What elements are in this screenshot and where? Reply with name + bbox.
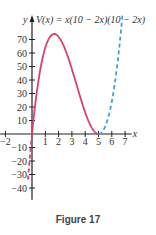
y-tick-label: −10 — [11, 142, 27, 153]
x-tick-label: 4 — [83, 136, 88, 147]
y-tick-label: 50 — [17, 61, 27, 72]
x-axis-label: x — [132, 128, 138, 139]
y-axis-arrow-icon — [30, 15, 35, 22]
x-tick-label: −2 — [0, 136, 11, 147]
chart: yxV(x) = x(10 − 2x)(10 − 2x)−21234567706… — [0, 0, 156, 235]
y-tick-label: 60 — [17, 48, 27, 59]
y-tick-label: 10 — [17, 115, 27, 126]
x-tick-label: 2 — [56, 136, 61, 147]
figure-caption: Figure 17 — [0, 214, 156, 225]
y-tick-label: −30 — [11, 169, 27, 180]
x-tick-label: 1 — [43, 136, 48, 147]
x-tick-label: 3 — [69, 136, 74, 147]
y-tick-label: 20 — [17, 102, 27, 113]
x-tick-label: 7 — [123, 136, 128, 147]
y-axis-label: y — [22, 14, 28, 25]
y-tick-label: −20 — [11, 156, 27, 167]
series-line-2 — [99, 15, 123, 134]
y-tick-label: 40 — [17, 75, 27, 86]
x-tick-label: 5 — [96, 136, 101, 147]
series-line-0 — [32, 34, 99, 134]
chart-title: V(x) = x(10 − 2x)(10 − 2x) — [36, 14, 146, 26]
y-tick-label: −40 — [11, 183, 27, 194]
y-tick-label: 30 — [17, 88, 27, 99]
x-tick-label: 6 — [109, 136, 114, 147]
y-tick-label: 70 — [17, 34, 27, 45]
